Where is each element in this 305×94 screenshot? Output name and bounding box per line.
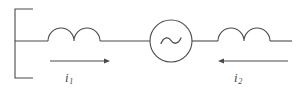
circuit-diagram: i1 i2	[0, 0, 305, 94]
inductor-right-coils	[218, 28, 270, 41]
current-arrow-i2-head-icon	[218, 58, 224, 63]
current-label-i1-subscript: 1	[69, 77, 73, 86]
inductor-left-coils	[48, 28, 100, 41]
terminal-bracket	[15, 9, 33, 78]
current-arrow-i1-head-icon	[104, 58, 110, 63]
ac-source-tilde-icon	[161, 38, 181, 44]
current-label-i2-subscript: 2	[238, 77, 242, 86]
current-label-i2: i2	[234, 71, 242, 84]
current-label-i1: i1	[65, 71, 73, 84]
circuit-schematic-canvas	[0, 0, 305, 94]
